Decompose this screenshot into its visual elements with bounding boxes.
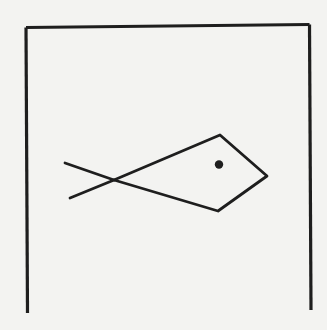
fish-tail-upper xyxy=(65,163,114,180)
frame-left-edge xyxy=(26,28,28,314)
frame xyxy=(26,25,311,314)
sketch-canvas: Hand-drawn line sketch of a fish inside … xyxy=(0,0,327,330)
frame-right-edge xyxy=(310,25,312,311)
frame-top-edge xyxy=(26,25,310,28)
fish-drawing xyxy=(0,0,327,330)
fish-body xyxy=(114,135,267,211)
eye-dot-icon xyxy=(215,160,223,168)
fish-icon xyxy=(65,135,267,211)
fish-tail-lower xyxy=(70,180,114,198)
